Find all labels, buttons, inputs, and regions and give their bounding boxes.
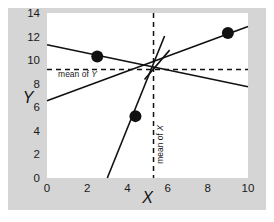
x-tick-label: 4: [124, 182, 131, 194]
data-point-marker: [129, 110, 141, 122]
annotation-prefix: mean of: [58, 69, 91, 79]
y-axis-title: Y: [23, 89, 35, 106]
y-tick-label: 14: [27, 7, 40, 19]
y-tick-label: 12: [27, 31, 40, 43]
y-tick-label: 6: [34, 101, 40, 113]
x-tick-label: 8: [205, 182, 211, 194]
annotation-prefix: mean of: [155, 131, 165, 164]
mean-annotation-label: mean of Y: [58, 69, 98, 79]
x-tick-label: 6: [164, 182, 170, 194]
mean-annotation-label: mean of X: [155, 125, 165, 164]
y-tick-label: 10: [27, 54, 40, 66]
y-tick-label: 8: [34, 78, 40, 90]
x-tick-label: 2: [84, 182, 90, 194]
y-tick-label: 2: [34, 148, 40, 160]
data-point-marker: [222, 27, 234, 39]
y-tick-label: 0: [34, 172, 40, 184]
y-tick-label: 4: [34, 125, 41, 137]
x-tick-label: 0: [44, 182, 50, 194]
scatter-plot-figure: 02468101214 0246810 mean of Ymean of X X…: [0, 0, 274, 222]
x-tick-label: 10: [242, 182, 255, 194]
data-point-marker: [91, 51, 103, 63]
annotation-variable: X: [155, 125, 165, 132]
x-axis-title: X: [141, 189, 154, 206]
